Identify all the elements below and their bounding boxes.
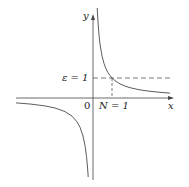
diagram-canvas: y x 0 ε = 1 N = 1 xyxy=(0,0,189,187)
curve-left-branch xyxy=(16,103,88,177)
origin-label: 0 xyxy=(84,101,90,111)
n-label: N = 1 xyxy=(99,101,129,111)
curve-right-branch xyxy=(97,8,170,93)
epsilon-label: ε = 1 xyxy=(62,73,88,83)
y-axis-arrow-icon xyxy=(91,14,95,20)
graph-svg xyxy=(0,0,189,187)
x-axis-label: x xyxy=(168,101,174,111)
y-axis-label: y xyxy=(83,11,89,21)
